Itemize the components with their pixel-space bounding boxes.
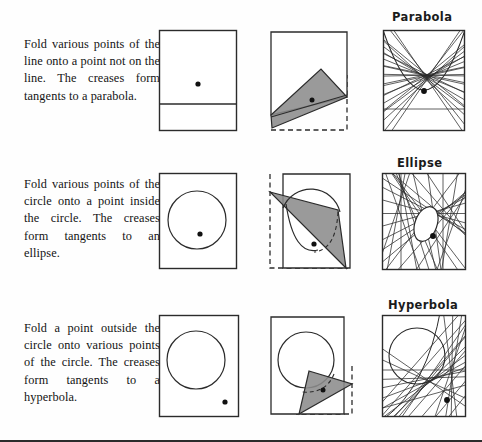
parabola-envelope-panel xyxy=(382,29,466,132)
rectangle-sheet xyxy=(160,31,237,131)
interior-focus-dot xyxy=(430,233,436,239)
ellipse-envelope-panel xyxy=(381,172,467,271)
focus-dot xyxy=(195,81,200,86)
interior-focus-dot xyxy=(311,241,316,246)
parabola-label: Parabola xyxy=(392,10,452,24)
ellipse-setup-panel xyxy=(158,172,238,270)
ellipse-fold-panel xyxy=(266,170,356,274)
focus-dot xyxy=(421,88,427,94)
hyperbola-row: Fold a point outside the circle onto var… xyxy=(0,292,482,442)
parabola-row: Fold various points of the line onto a p… xyxy=(0,0,482,150)
ellipse-caption: Fold various points of the circle onto a… xyxy=(24,176,160,262)
rectangle-sheet xyxy=(160,174,237,269)
hyperbola-label: Hyperbola xyxy=(388,298,458,312)
exterior-focus-dot xyxy=(222,399,227,404)
exterior-focus-dot xyxy=(321,388,326,393)
hyperbola-envelope-panel xyxy=(381,314,467,418)
parabola-setup-panel xyxy=(158,29,238,132)
ellipse-row: Fold various points of the circle onto a… xyxy=(0,148,482,296)
interior-focus-dot xyxy=(197,231,202,236)
hyperbola-fold-panel xyxy=(266,314,358,420)
parabola-caption: Fold various points of the line onto a p… xyxy=(24,36,160,105)
hyperbola-setup-panel xyxy=(158,314,240,418)
figure-page: Fold various points of the line onto a p… xyxy=(0,0,482,442)
ellipse-label: Ellipse xyxy=(397,156,442,170)
exterior-focus-dot xyxy=(444,397,450,403)
focus-dot xyxy=(310,98,315,103)
hyperbola-caption: Fold a point outside the circle onto var… xyxy=(24,320,160,406)
parabola-fold-panel xyxy=(268,29,354,135)
